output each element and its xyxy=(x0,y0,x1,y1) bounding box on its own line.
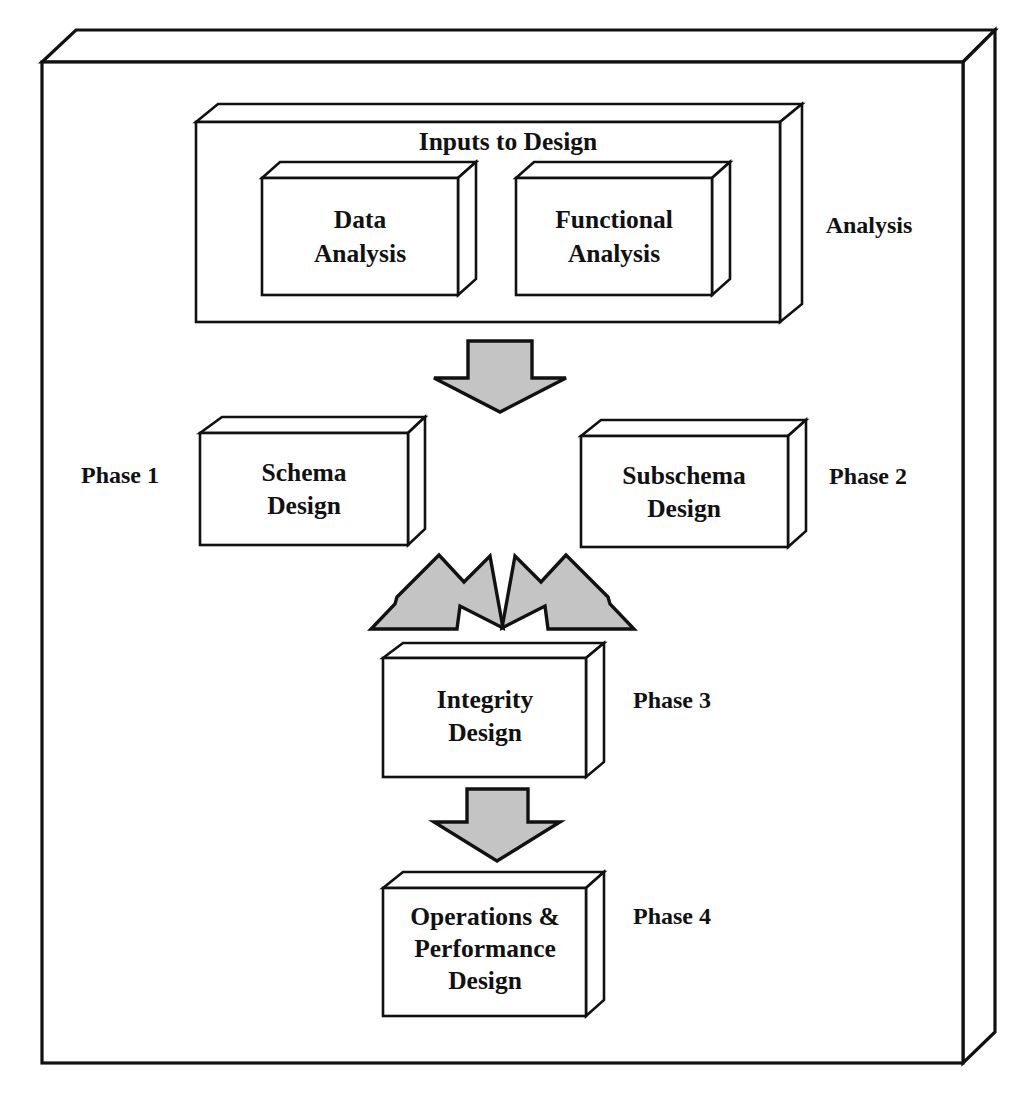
functional-analysis-front-face xyxy=(516,178,712,295)
functional-analysis-top-face xyxy=(516,162,730,178)
phase-1-side-label: Phase 1 xyxy=(81,462,159,488)
integrity-design-top-face xyxy=(383,643,604,658)
box-functional-analysis[interactable]: Functional Analysis xyxy=(516,162,730,295)
inputs-container-top-face xyxy=(196,104,802,122)
functional-analysis-right-face xyxy=(712,162,730,295)
integrity-design-label-line1: Integrity xyxy=(437,685,534,714)
operations-design-label-line3: Design xyxy=(448,966,522,995)
inputs-container-right-face xyxy=(780,104,802,322)
data-analysis-front-face xyxy=(262,178,458,295)
subschema-design-front-face xyxy=(581,436,788,547)
schema-design-top-face xyxy=(200,417,425,433)
methodology-diagram: Inputs to Design Data Analysis Functiona… xyxy=(0,0,1026,1100)
diagram-canvas: Inputs to Design Data Analysis Functiona… xyxy=(0,0,1026,1100)
phase-2-side-label: Phase 2 xyxy=(829,463,907,489)
schema-design-front-face xyxy=(200,433,408,545)
outer-slab-right-face xyxy=(963,30,995,1063)
subschema-design-right-face xyxy=(788,420,806,547)
schema-design-label-line2: Design xyxy=(267,491,341,520)
data-analysis-top-face xyxy=(262,162,476,178)
functional-analysis-label-line2: Analysis xyxy=(568,239,660,268)
outer-slab-top-face xyxy=(42,30,995,62)
schema-design-right-face xyxy=(408,417,425,545)
operations-design-label-line2: Performance xyxy=(414,934,556,963)
data-analysis-label-line2: Analysis xyxy=(314,239,406,268)
integrity-design-right-face xyxy=(586,643,604,777)
subschema-design-label-line2: Design xyxy=(647,494,721,523)
functional-analysis-label-line1: Functional xyxy=(555,205,673,234)
inputs-container-title: Inputs to Design xyxy=(419,127,598,156)
integrity-design-label-line2: Design xyxy=(448,718,522,747)
phase-4-side-label: Phase 4 xyxy=(633,903,711,929)
box-integrity-design[interactable]: Integrity Design xyxy=(383,643,604,777)
subschema-design-label-line1: Subschema xyxy=(622,461,746,490)
data-analysis-label-line1: Data xyxy=(334,205,387,234)
box-operations-performance-design[interactable]: Operations & Performance Design xyxy=(383,872,604,1016)
operations-design-right-face xyxy=(586,872,604,1016)
box-subschema-design[interactable]: Subschema Design xyxy=(581,420,806,547)
data-analysis-right-face xyxy=(458,162,476,295)
schema-design-label-line1: Schema xyxy=(262,458,347,487)
operations-design-label-line1: Operations & xyxy=(410,902,559,931)
box-data-analysis[interactable]: Data Analysis xyxy=(262,162,476,295)
analysis-side-label: Analysis xyxy=(826,212,913,238)
operations-design-top-face xyxy=(383,872,604,888)
phase-3-side-label: Phase 3 xyxy=(633,687,711,713)
box-schema-design[interactable]: Schema Design xyxy=(200,417,425,545)
subschema-design-top-face xyxy=(581,420,806,436)
